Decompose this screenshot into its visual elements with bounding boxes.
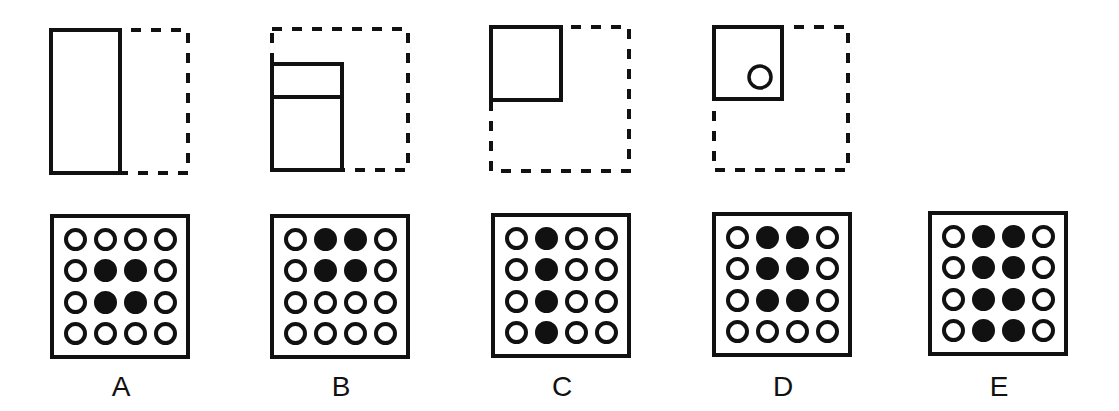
filled-dot [972, 288, 995, 311]
solid-rectangle [51, 30, 120, 173]
figure-a [51, 30, 188, 173]
empty-dot [726, 320, 749, 343]
option-b-grid[interactable] [270, 214, 410, 359]
empty-dot [565, 321, 588, 344]
empty-dot [505, 321, 528, 344]
filled-dot [535, 227, 558, 250]
empty-dot [595, 290, 618, 313]
filled-dot [94, 291, 117, 314]
empty-dot [942, 288, 965, 311]
empty-dot [64, 228, 87, 251]
empty-dot [284, 322, 307, 345]
empty-dot [374, 322, 397, 345]
dot-matrix [501, 223, 621, 348]
empty-dot [374, 259, 397, 282]
filled-dot [756, 226, 779, 249]
empty-dot [64, 322, 87, 345]
empty-dot [344, 322, 367, 345]
empty-dot [726, 226, 749, 249]
empty-dot [816, 320, 839, 343]
empty-dot [154, 291, 177, 314]
empty-dot [314, 291, 337, 314]
figure-c [491, 27, 629, 171]
empty-dot [595, 227, 618, 250]
option-label: E [979, 372, 1019, 402]
figure-d [714, 27, 848, 170]
option-c-grid[interactable] [491, 213, 631, 358]
figure-b [272, 29, 408, 170]
empty-dot [1032, 225, 1055, 248]
empty-dot [154, 259, 177, 282]
filled-dot [786, 226, 809, 249]
empty-dot [505, 290, 528, 313]
empty-dot [1032, 288, 1055, 311]
option-label: A [101, 372, 141, 402]
filled-dot [786, 257, 809, 280]
filled-dot [535, 321, 558, 344]
option-label: C [542, 372, 582, 402]
empty-dot [1032, 319, 1055, 342]
empty-dot [942, 225, 965, 248]
empty-dot [154, 228, 177, 251]
empty-dot [565, 290, 588, 313]
empty-dot [374, 228, 397, 251]
empty-dot [756, 320, 779, 343]
option-d-grid[interactable] [712, 212, 852, 357]
filled-dot [972, 225, 995, 248]
empty-dot [565, 227, 588, 250]
filled-dot [94, 259, 117, 282]
filled-dot [535, 290, 558, 313]
option-a-grid[interactable] [50, 214, 190, 359]
filled-dot [972, 256, 995, 279]
option-label: D [763, 372, 803, 402]
option-label: B [321, 372, 361, 402]
empty-dot [94, 228, 117, 251]
dot-matrix [938, 221, 1058, 346]
empty-dot [565, 258, 588, 281]
empty-dot [816, 289, 839, 312]
dot-matrix [60, 224, 180, 349]
empty-dot [786, 320, 809, 343]
option-e-grid[interactable] [928, 211, 1068, 356]
empty-dot [64, 259, 87, 282]
empty-dot [595, 321, 618, 344]
filled-dot [756, 289, 779, 312]
empty-dot [124, 228, 147, 251]
filled-dot [124, 259, 147, 282]
empty-dot [942, 256, 965, 279]
solid-rectangle [491, 27, 561, 100]
filled-dot [786, 289, 809, 312]
empty-dot [284, 259, 307, 282]
empty-dot [64, 291, 87, 314]
empty-dot [726, 257, 749, 280]
dot-matrix [280, 224, 400, 349]
solid-rectangle [272, 64, 342, 170]
empty-dot [726, 289, 749, 312]
solid-rectangle [714, 27, 782, 99]
filled-dot [124, 291, 147, 314]
filled-dot [314, 259, 337, 282]
filled-dot [1002, 319, 1025, 342]
empty-dot [505, 227, 528, 250]
empty-dot [284, 291, 307, 314]
filled-dot [344, 228, 367, 251]
filled-dot [1002, 256, 1025, 279]
filled-dot [1002, 225, 1025, 248]
filled-dot [972, 319, 995, 342]
empty-dot [344, 291, 367, 314]
empty-dot [284, 228, 307, 251]
empty-dot [816, 226, 839, 249]
empty-dot [124, 322, 147, 345]
filled-dot [1002, 288, 1025, 311]
empty-dot [314, 322, 337, 345]
empty-dot [816, 257, 839, 280]
empty-dot [94, 322, 117, 345]
empty-dot [505, 258, 528, 281]
filled-dot [756, 257, 779, 280]
filled-dot [535, 258, 558, 281]
empty-dot [1032, 256, 1055, 279]
filled-dot [314, 228, 337, 251]
empty-dot [595, 258, 618, 281]
empty-dot [374, 291, 397, 314]
empty-dot [154, 322, 177, 345]
